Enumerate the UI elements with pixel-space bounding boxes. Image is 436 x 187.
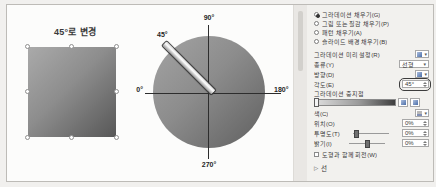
color-row: 색(C) ▾ [314, 108, 429, 118]
fill-option-background[interactable]: 슬라이드 배경 채우기(B) [314, 37, 429, 46]
paint-bucket-icon [417, 111, 422, 116]
gradient-swatch-icon [417, 72, 422, 77]
brightness-slider[interactable] [349, 140, 385, 147]
slider-thumb[interactable] [365, 140, 370, 148]
color-picker-button[interactable]: ▾ [415, 109, 429, 117]
add-gradient-stop-button[interactable] [398, 98, 408, 107]
spinner-arrows-icon[interactable] [423, 121, 427, 126]
type-value: 선형 [402, 60, 414, 69]
chevron-down-icon: ▾ [423, 62, 426, 67]
transparency-slider[interactable] [353, 130, 389, 137]
position-spinner[interactable]: 0% [402, 119, 429, 127]
format-shape-panel: 그라데이션 채우기(G) 그림 또는 질감 채우기(P) 패턴 채우기(A) 슬… [307, 5, 433, 181]
gradient-stop-handle[interactable] [314, 98, 319, 107]
gradient-type-dropdown[interactable]: 선형 ▾ [399, 60, 429, 68]
fill-option-label: 그림 또는 질감 채우기(P) [322, 19, 389, 28]
position-value: 0% [405, 120, 414, 126]
selection-handle[interactable] [69, 44, 74, 49]
gradient-swatch-icon [417, 52, 422, 57]
line-section-header[interactable]: ▷ 선 [314, 162, 429, 173]
square-demo: 45°로 변경 [21, 25, 129, 137]
radio-button-icon[interactable] [314, 39, 319, 44]
brightness-label: 밝기(I) [314, 139, 332, 148]
gradient-direction-dropdown[interactable]: ▾ [415, 70, 429, 78]
selection-handle[interactable] [114, 44, 119, 49]
gradient-stops-label: 그라데이션 중지점 [314, 89, 364, 98]
figure-frame: 45°로 변경 90° 270° 0° 180° 45° 그라데이션 채우기(G [6, 4, 434, 182]
panel-scrollbar[interactable] [293, 5, 307, 181]
gradient-stops-bar[interactable] [314, 99, 396, 106]
square-caption: 45°로 변경 [21, 25, 129, 38]
preset-label: 그라데이션 미리 설정(R) [314, 50, 380, 59]
fill-option-label: 패턴 채우기(A) [322, 28, 362, 37]
transparency-row: 투명도(T) 0% [314, 128, 429, 138]
angle-row: 각도(E) 45° [314, 79, 429, 89]
fill-option-pattern[interactable]: 패턴 채우기(A) [314, 28, 429, 37]
fill-option-label: 그라데이션 채우기(G) [322, 10, 380, 19]
transparency-label: 투명도(T) [314, 129, 340, 138]
spinner-arrows-icon[interactable] [423, 141, 427, 146]
chevron-down-icon: ▾ [424, 72, 427, 77]
stops-label-row: 그라데이션 중지점 [314, 89, 429, 97]
collapsed-arrow-icon: ▷ [314, 165, 318, 171]
transparency-value: 0% [405, 130, 414, 136]
angle-value: 45° [405, 81, 414, 87]
brightness-spinner[interactable]: 0% [402, 139, 429, 147]
rotate-with-shape-label: 도형과 함께 회전(W) [322, 150, 377, 159]
selection-handle[interactable] [114, 135, 119, 140]
selection-handle[interactable] [25, 44, 30, 49]
slider-thumb[interactable] [354, 130, 359, 138]
position-row: 위치(O) 0% [314, 118, 429, 128]
color-label: 색(C) [314, 109, 328, 118]
type-row: 종류(Y) 선형 ▾ [314, 59, 429, 69]
angle-dial: 90° 270° 0° 180° 45° [137, 9, 297, 177]
direction-label: 방향(D) [314, 70, 334, 79]
selection-handle[interactable] [25, 89, 30, 94]
brightness-row: 밝기(I) 0% [314, 138, 429, 148]
fill-option-label: 슬라이드 배경 채우기(B) [322, 37, 387, 46]
fill-option-picture[interactable]: 그림 또는 질감 채우기(P) [314, 19, 429, 28]
selection-handle[interactable] [25, 135, 30, 140]
preset-row: 그라데이션 미리 설정(R) ▾ [314, 49, 429, 59]
selection-handle[interactable] [69, 135, 74, 140]
chevron-down-icon: ▾ [424, 111, 427, 116]
selection-handle[interactable] [114, 89, 119, 94]
position-label: 위치(O) [314, 119, 335, 128]
type-label: 종류(Y) [314, 60, 334, 69]
radio-button-icon[interactable] [314, 21, 319, 26]
line-section-label: 선 [321, 163, 327, 173]
scrollbar-thumb[interactable] [298, 11, 303, 71]
angle-label: 각도(E) [314, 80, 334, 89]
brightness-value: 0% [405, 140, 414, 146]
transparency-spinner[interactable]: 0% [402, 129, 429, 137]
dial-label-90: 90° [197, 14, 221, 21]
rotate-with-shape-row[interactable]: 도형과 함께 회전(W) [314, 150, 429, 159]
dial-label-angle: 45° [157, 31, 177, 38]
gradient-stops-row [314, 97, 429, 108]
chevron-down-icon: ▾ [424, 52, 427, 57]
direction-row: 방향(D) ▾ [314, 69, 429, 79]
gradient-square-shape[interactable] [28, 47, 116, 137]
gradient-preset-dropdown[interactable]: ▾ [415, 50, 429, 58]
spinner-arrows-icon[interactable] [423, 131, 427, 136]
spinner-arrows-icon[interactable] [423, 82, 427, 87]
radio-button-icon[interactable] [314, 12, 319, 17]
remove-stop-icon [413, 100, 418, 105]
radio-button-icon[interactable] [314, 30, 319, 35]
fill-option-gradient[interactable]: 그라데이션 채우기(G) [314, 10, 429, 19]
add-stop-icon [401, 100, 406, 105]
dial-label-0: 0° [129, 86, 143, 93]
checkbox-icon[interactable] [314, 152, 319, 157]
dial-label-270: 270° [195, 161, 223, 168]
remove-gradient-stop-button[interactable] [410, 98, 420, 107]
angle-spinner[interactable]: 45° [402, 80, 429, 88]
